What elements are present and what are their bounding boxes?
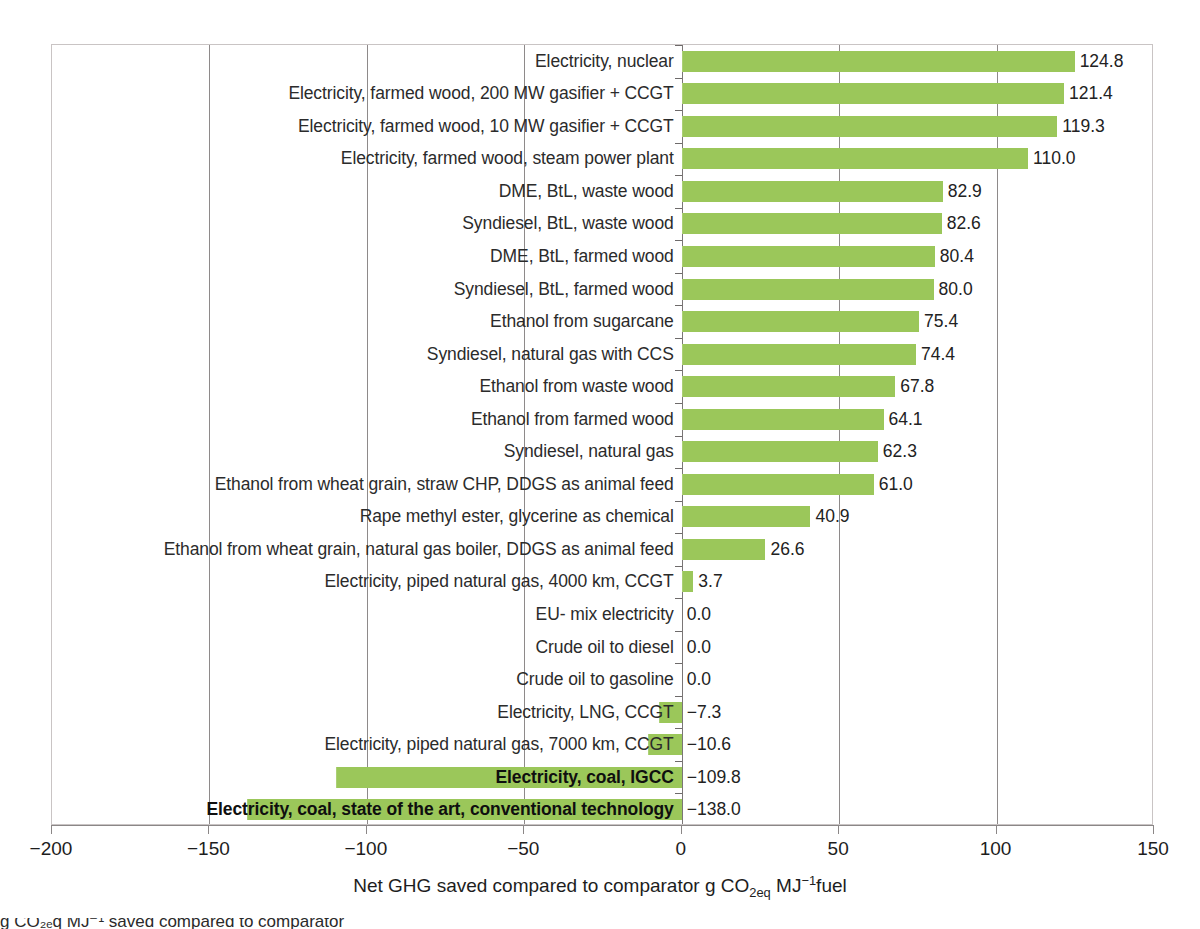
x-axis-title-pre: Net GHG saved compared to comparator g C… xyxy=(353,875,749,896)
bar-row: Ethanol from sugarcane75.4 xyxy=(52,305,1152,338)
category-tick xyxy=(675,501,682,502)
category-tick xyxy=(675,598,682,599)
category-tick xyxy=(675,208,682,209)
category-label: Electricity, coal, IGCC xyxy=(495,767,679,788)
category-tick xyxy=(675,468,682,469)
category-label: Ethanol from farmed wood xyxy=(471,409,680,430)
bar-row: Electricity, piped natural gas, 7000 km,… xyxy=(52,728,1152,761)
x-tick--50 xyxy=(523,825,524,834)
x-tick-150 xyxy=(1153,825,1154,834)
bar-row: Ethanol from wheat grain, straw CHP, DDG… xyxy=(52,468,1152,501)
category-label: Ethanol from wheat grain, natural gas bo… xyxy=(164,539,680,560)
category-tick xyxy=(675,696,682,697)
x-tick-label: −100 xyxy=(344,838,387,860)
category-label: Syndiesel, natural gas xyxy=(504,441,680,462)
category-label: Electricity, coal, state of the art, con… xyxy=(206,799,679,820)
value-label: 0.0 xyxy=(687,669,711,690)
category-tick xyxy=(675,305,682,306)
bar xyxy=(682,441,878,462)
bar-row: Syndiesel, natural gas62.3 xyxy=(52,436,1152,469)
bar-row: EU- mix electricity0.0 xyxy=(52,598,1152,631)
bar xyxy=(682,148,1028,169)
bar-row: Crude oil to diesel0.0 xyxy=(52,631,1152,664)
value-label: 62.3 xyxy=(883,441,917,462)
value-label: 61.0 xyxy=(879,474,913,495)
x-tick-label: 50 xyxy=(828,838,849,860)
category-label: Ethanol from wheat grain, straw CHP, DDG… xyxy=(215,474,680,495)
category-tick xyxy=(675,273,682,274)
value-label: 110.0 xyxy=(1033,148,1076,169)
bar-row: Ethanol from wheat grain, natural gas bo… xyxy=(52,533,1152,566)
category-label: Rape methyl ester, glycerine as chemical xyxy=(360,506,680,527)
value-label: 82.9 xyxy=(948,181,982,202)
category-tick xyxy=(675,728,682,729)
clipped-caption-text: g CO₂ₑq MJ⁻¹ saved compared to comparato… xyxy=(0,918,1200,929)
x-tick-label: −200 xyxy=(30,838,73,860)
bar-row: Rape methyl ester, glycerine as chemical… xyxy=(52,501,1152,534)
x-axis-line xyxy=(51,825,1153,826)
bar-row: Electricity, farmed wood, 200 MW gasifie… xyxy=(52,78,1152,111)
category-tick xyxy=(675,793,682,794)
category-tick xyxy=(675,663,682,664)
bar xyxy=(682,51,1075,72)
x-tick--150 xyxy=(208,825,209,834)
x-axis-title-subscript: 2eq xyxy=(749,885,771,900)
value-label: 40.9 xyxy=(815,506,849,527)
bar-row: DME, BtL, waste wood82.9 xyxy=(52,175,1152,208)
bar-row: Syndiesel, natural gas with CCS74.4 xyxy=(52,338,1152,371)
bar xyxy=(682,213,942,234)
x-tick--100 xyxy=(366,825,367,834)
x-axis-title: Net GHG saved compared to comparator g C… xyxy=(0,873,1200,900)
bar-row: Electricity, farmed wood, steam power pl… xyxy=(52,143,1152,176)
bar-row: Electricity, piped natural gas, 4000 km,… xyxy=(52,566,1152,599)
category-tick xyxy=(675,110,682,111)
category-tick xyxy=(675,240,682,241)
x-tick-label: −50 xyxy=(507,838,539,860)
category-tick xyxy=(675,631,682,632)
bar-row: Electricity, nuclear124.8 xyxy=(52,45,1152,78)
category-tick xyxy=(675,403,682,404)
category-tick xyxy=(675,338,682,339)
bar-row: Crude oil to gasoline0.0 xyxy=(52,663,1152,696)
bar xyxy=(682,311,919,332)
value-label: −10.6 xyxy=(687,734,731,755)
value-label: 26.6 xyxy=(770,539,804,560)
x-axis-title-post: fuel xyxy=(816,875,847,896)
value-label: 74.4 xyxy=(921,344,955,365)
clipped-bottom-caption: g CO₂ₑq MJ⁻¹ saved compared to comparato… xyxy=(0,918,1200,929)
category-label: EU- mix electricity xyxy=(536,604,680,625)
category-tick xyxy=(675,370,682,371)
category-label: Electricity, nuclear xyxy=(535,51,680,72)
category-tick xyxy=(675,78,682,79)
category-tick xyxy=(675,436,682,437)
category-label: Crude oil to diesel xyxy=(536,637,680,658)
category-label: Syndiesel, BtL, farmed wood xyxy=(454,279,680,300)
value-label: 82.6 xyxy=(947,213,981,234)
category-label: Ethanol from sugarcane xyxy=(490,311,680,332)
category-label: Electricity, piped natural gas, 7000 km,… xyxy=(325,734,680,755)
value-label: 75.4 xyxy=(924,311,958,332)
value-label: 80.4 xyxy=(940,246,974,267)
value-label: 119.3 xyxy=(1062,116,1105,137)
bar xyxy=(682,409,884,430)
x-tick-50 xyxy=(838,825,839,834)
bar xyxy=(682,246,935,267)
x-tick-label: 100 xyxy=(980,838,1012,860)
bar-row: Electricity, coal, IGCC−109.8 xyxy=(52,761,1152,794)
value-label: 80.0 xyxy=(939,279,973,300)
ghg-savings-bar-chart: Electricity, nuclear124.8Electricity, fa… xyxy=(0,0,1200,929)
bar xyxy=(682,279,934,300)
value-label: 0.0 xyxy=(687,604,711,625)
category-label: Syndiesel, natural gas with CCS xyxy=(427,344,680,365)
x-tick-label: 150 xyxy=(1137,838,1169,860)
bar xyxy=(682,83,1064,104)
bar-row: Ethanol from waste wood67.8 xyxy=(52,370,1152,403)
value-label: −109.8 xyxy=(687,767,741,788)
bar xyxy=(682,506,811,527)
bar-row: Electricity, coal, state of the art, con… xyxy=(52,793,1152,826)
bar xyxy=(682,344,916,365)
category-tick xyxy=(675,143,682,144)
value-label: −7.3 xyxy=(687,702,722,723)
value-label: −138.0 xyxy=(687,799,741,820)
bar xyxy=(682,474,874,495)
